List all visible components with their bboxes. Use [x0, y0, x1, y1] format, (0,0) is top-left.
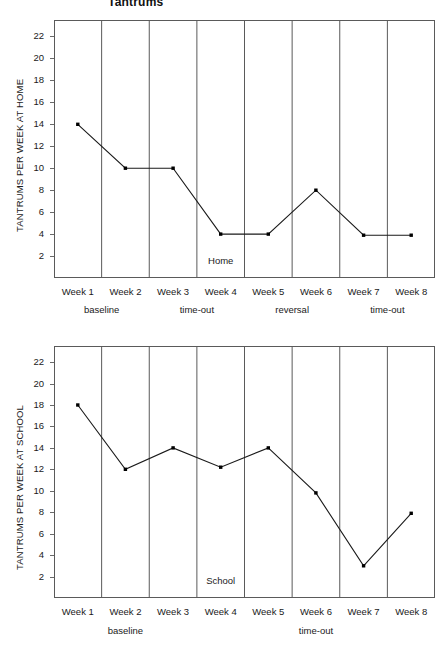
data-point-marker — [171, 446, 174, 449]
x-axis-tick-label: Week 5 — [241, 606, 295, 617]
x-axis-tick-label: Week 1 — [51, 286, 105, 297]
x-axis-tick-label: Week 2 — [98, 606, 152, 617]
x-axis-tick-label: Week 8 — [384, 606, 438, 617]
phase-marker: time-out — [152, 305, 241, 318]
panel-annotation-label: School — [201, 575, 241, 586]
x-axis-tick-label: Week 4 — [194, 286, 248, 297]
phase-marker: baseline — [57, 305, 146, 318]
data-point-marker — [219, 232, 222, 235]
x-axis-tick-label: Week 5 — [241, 286, 295, 297]
phase-marker: time-out — [200, 626, 432, 639]
x-axis-tick-label: Week 8 — [384, 286, 438, 297]
x-axis-tick-label: Week 3 — [146, 286, 200, 297]
chart-school: TANTRUMS PER WEEK AT SCHOOL2468101214161… — [0, 330, 442, 652]
data-point-marker — [362, 234, 365, 237]
data-point-marker — [410, 234, 413, 237]
phase-marker: time-out — [343, 305, 432, 318]
phase-label: reversal — [248, 304, 337, 315]
x-axis-tick-label: Week 6 — [289, 606, 343, 617]
phase-marker: baseline — [57, 626, 194, 639]
chart-home: TANTRUMS PER WEEK AT HOME246810121416182… — [0, 0, 442, 330]
phase-label: time-out — [152, 304, 241, 315]
x-axis-tick-label: Week 2 — [98, 286, 152, 297]
x-axis-tick-label: Week 7 — [337, 286, 391, 297]
data-point-marker — [267, 446, 270, 449]
data-point-marker — [124, 167, 127, 170]
phase-marker: reversal — [248, 305, 337, 318]
phase-label: time-out — [343, 304, 432, 315]
data-point-marker — [267, 232, 270, 235]
phase-annotations: baselinetime-out — [0, 626, 442, 640]
data-point-marker — [362, 564, 365, 567]
phase-label: baseline — [57, 304, 146, 315]
phase-label: time-out — [200, 625, 432, 636]
chart-canvas — [0, 330, 442, 652]
data-point-marker — [314, 491, 317, 494]
phase-label: baseline — [57, 625, 194, 636]
data-point-marker — [76, 123, 79, 126]
x-axis-tick-label: Week 6 — [289, 286, 343, 297]
data-point-marker — [314, 189, 317, 192]
data-point-marker — [124, 468, 127, 471]
chart-canvas — [0, 0, 442, 330]
x-axis-tick-label: Week 1 — [51, 606, 105, 617]
data-point-marker — [171, 167, 174, 170]
data-point-marker — [410, 512, 413, 515]
phase-annotations: baselinetime-outreversaltime-out — [0, 305, 442, 319]
x-axis-tick-label: Week 7 — [337, 606, 391, 617]
panel-annotation-label: Home — [201, 255, 241, 266]
data-point-marker — [219, 466, 222, 469]
x-axis-tick-label: Week 3 — [146, 606, 200, 617]
x-axis-tick-label: Week 4 — [194, 606, 248, 617]
data-point-marker — [76, 403, 79, 406]
